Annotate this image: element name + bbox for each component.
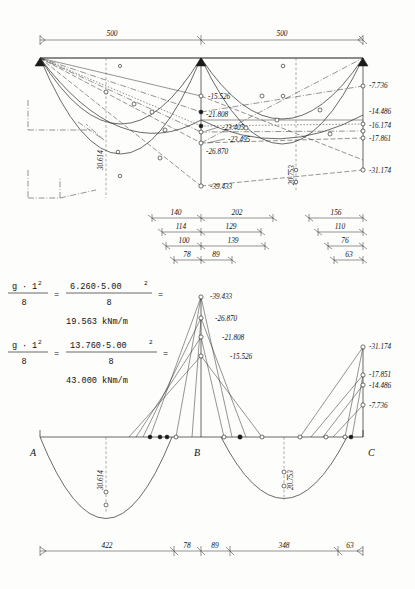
- moment-label-23405: -23.405: [222, 124, 245, 132]
- dim-156: 156: [330, 208, 341, 217]
- top-moment-labels-b: -15.526 -21.808 -23.405 -23.495 -26.870 …: [206, 93, 251, 191]
- dim-140: 140: [170, 208, 181, 217]
- formula2-exponent: 2: [38, 339, 42, 346]
- formula1-exponent: 2: [38, 280, 42, 287]
- bottom-dim-89: 89: [211, 541, 219, 550]
- bottom-label-31174: -31.174: [369, 343, 392, 351]
- dim-76: 76: [341, 236, 349, 245]
- bottom-label-14486: -14.486: [369, 382, 392, 390]
- dimension-chain-right-3: 76: [324, 236, 367, 250]
- bottom-moment-labels-b: -39.433 -26.870 -21.808 -15.526: [210, 293, 253, 361]
- moment-label-21808: -21.808: [206, 111, 229, 119]
- formula2-equals-2: =: [163, 349, 168, 359]
- bottom-dimension-line: 422 78 89 348 63: [40, 541, 363, 556]
- bottom-dim-422: 422: [101, 541, 112, 550]
- top-span-value-right: 20.753: [288, 165, 296, 185]
- top-moment-labels-c: -7.736 -14.486 -16.174 -17.861 -31.174: [369, 82, 392, 175]
- bottom-span-value-left: 30.614: [97, 470, 105, 491]
- dim-202: 202: [231, 208, 242, 217]
- bottom-label-39433: -39.433: [210, 293, 233, 301]
- formula2-denominator: 8: [21, 357, 26, 367]
- bottom-tendon-bundle-b: [129, 297, 262, 437]
- formula1-var: 1: [32, 282, 37, 292]
- formula2-var: 1: [32, 341, 37, 351]
- support-label-a: A: [29, 447, 37, 458]
- formula2-rhs-numerator: 13.760·5.00: [70, 341, 127, 351]
- dim-63: 63: [345, 250, 353, 259]
- dimension-chain-left-4: 78 89: [170, 250, 236, 264]
- bottom-label-26870: -26.870: [215, 315, 238, 323]
- bottom-moment-labels-c: -31.174 -17.851 -14.486 -7.736: [369, 343, 392, 410]
- dim-139: 139: [227, 236, 238, 245]
- formula1-result: 19.563 kNm/m: [66, 317, 128, 327]
- formula1-dot: ·: [22, 282, 27, 292]
- drawing-sheet: 500 500: [0, 0, 415, 589]
- dim-129: 129: [225, 222, 236, 231]
- bottom-beam-axis: [40, 430, 363, 437]
- formula1-equals-2: =: [158, 290, 163, 300]
- dim-110: 110: [335, 222, 346, 231]
- formula2-dot: ·: [22, 341, 27, 351]
- formula-block-1: g · 1 2 8 = 6.260·5.00 2 8 = 19.563 kNm/…: [8, 280, 163, 327]
- formula1-denominator: 8: [21, 298, 26, 308]
- span-dimension-right: 500: [276, 29, 287, 38]
- moment-label-39433: -39.433: [210, 183, 233, 191]
- formula2-rhs-denominator: 8: [108, 357, 113, 367]
- formula1-rhs-numerator: 6.260·5.00: [70, 282, 122, 292]
- formula1-equals-1: =: [54, 290, 59, 300]
- moment-label-14486: -14.486: [369, 108, 392, 116]
- dimension-chain-left-1: 140 202: [148, 208, 277, 222]
- top-tendon-lines-right: [201, 58, 363, 186]
- bottom-dim-78: 78: [183, 541, 191, 550]
- engineering-drawing: 500 500: [0, 0, 415, 589]
- top-construction-dashes: [28, 100, 104, 198]
- formula-block-2: g · 1 2 8 = 13.760·5.00 2 8 = 43.000 kNm…: [8, 339, 168, 386]
- top-span-dimension-line: 500 500: [40, 29, 367, 45]
- moment-label-26870: -26.870: [206, 148, 229, 156]
- bottom-tendon-bundle-c: [300, 347, 363, 437]
- bottom-label-17851: -17.851: [369, 371, 391, 379]
- bottom-dim-348: 348: [277, 541, 289, 550]
- moment-label-23495: -23.495: [228, 136, 251, 144]
- formula2-symbol: g: [12, 341, 17, 351]
- dim-78: 78: [183, 250, 191, 259]
- dimension-chain-right-2: 110: [314, 222, 367, 236]
- dimension-chain-right-1: 156: [305, 208, 367, 222]
- dim-89: 89: [212, 250, 220, 259]
- formula2-rhs-exponent: 2: [149, 339, 153, 346]
- bottom-ordinates: [106, 297, 363, 512]
- bottom-label-7736: -7.736: [369, 402, 388, 410]
- dimension-chain-left-3: 100 139: [162, 236, 269, 250]
- moment-label-31174: -31.174: [369, 167, 392, 175]
- top-span-value-left: 30.614: [97, 150, 105, 171]
- formula1-rhs-exponent: 2: [144, 280, 148, 287]
- moment-label-7736: -7.736: [369, 82, 388, 90]
- span-dimension-left: 500: [106, 29, 117, 38]
- moment-label-15526: -15.526: [208, 93, 231, 101]
- top-tendon-lines-left: [40, 58, 201, 186]
- formula2-equals-1: =: [54, 349, 59, 359]
- formula2-result: 43.000 kNm/m: [66, 376, 128, 386]
- formula1-rhs-denominator: 8: [106, 298, 111, 308]
- dimension-chain-right-4: 63: [330, 250, 367, 264]
- formula1-symbol: g: [12, 282, 17, 292]
- bottom-dim-63: 63: [346, 541, 354, 550]
- support-label-c: C: [368, 447, 375, 458]
- dim-100: 100: [178, 236, 189, 245]
- top-moment-parabolas: [40, 58, 363, 154]
- support-label-b: B: [194, 447, 200, 458]
- bottom-label-21808: -21.808: [222, 334, 245, 342]
- moment-label-16174: -16.174: [369, 122, 392, 130]
- dimension-chain-left-2: 114 129: [158, 222, 265, 236]
- bottom-span-value-right: 20.753: [287, 470, 295, 490]
- moment-label-17861: -17.861: [369, 135, 391, 143]
- dim-114: 114: [176, 222, 187, 231]
- bottom-label-15526: -15.526: [230, 353, 253, 361]
